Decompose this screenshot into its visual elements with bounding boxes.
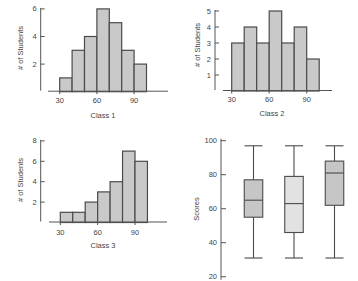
histogram-class-3: 2468306090Class 3# of Students: [16, 136, 167, 250]
histogram-bar: [123, 151, 135, 222]
y-tick-label: 6: [33, 157, 37, 166]
x-tick-label: 30: [56, 228, 64, 237]
y-tick-label: 80: [209, 170, 217, 179]
figure: 246306090Class 1# of Students 1234530609…: [0, 0, 358, 281]
histogram-bar: [244, 27, 257, 91]
y-tick-label: 40: [209, 238, 217, 247]
histogram-bar: [72, 50, 84, 91]
histogram-class-1: 246306090Class 1# of Students: [16, 4, 168, 120]
y-tick-label: 4: [207, 23, 211, 32]
y-tick-label: 4: [33, 32, 37, 41]
y-tick-label: 4: [33, 177, 37, 186]
histogram-bar: [294, 27, 307, 91]
y-tick-label: 6: [33, 4, 37, 13]
y-tick-label: 100: [204, 136, 217, 145]
x-tick-label: 90: [130, 96, 138, 105]
histogram-bar: [109, 23, 121, 92]
histogram-bar: [85, 202, 97, 222]
x-tick-label: 90: [303, 95, 311, 104]
histogram-class-2: 12345306090Class 2# of Students: [193, 7, 332, 119]
x-tick-label: 60: [93, 228, 101, 237]
x-tick-label: 90: [131, 228, 139, 237]
y-tick-label: 5: [207, 7, 211, 16]
boxplot-1: [244, 146, 263, 258]
y-tick-label: 8: [33, 136, 37, 145]
histogram-bar: [269, 11, 282, 91]
x-tick-label: 60: [265, 95, 273, 104]
y-tick-label: 20: [209, 272, 217, 281]
histogram-bar: [60, 212, 72, 222]
y-tick-label: 2: [33, 60, 37, 69]
histogram-bar: [122, 50, 134, 91]
histogram-bar: [134, 64, 146, 92]
histogram-bar: [257, 43, 270, 91]
chart-canvas: 246306090Class 1# of Students 1234530609…: [0, 0, 358, 281]
x-axis-label: Class 3: [90, 241, 115, 250]
histogram-bar: [307, 59, 320, 91]
x-tick-label: 60: [93, 96, 101, 105]
y-axis-label: # of Students: [16, 158, 25, 202]
histogram-bar: [85, 37, 97, 92]
histogram-bar: [282, 43, 295, 91]
y-axis-label: # of Students: [193, 23, 202, 67]
boxplot-3: [325, 146, 344, 258]
y-axis-label: Scores: [192, 197, 201, 221]
boxplot-2: [285, 146, 304, 258]
x-axis-label: Class 2: [259, 109, 284, 118]
histogram-bar: [135, 161, 147, 222]
x-tick-label: 30: [56, 96, 64, 105]
y-tick-label: 1: [207, 71, 211, 80]
histogram-bar: [232, 43, 245, 91]
x-tick-label: 30: [228, 95, 236, 104]
y-axis-label: # of Students: [16, 26, 25, 70]
y-tick-label: 2: [207, 55, 211, 64]
histogram-bar: [98, 192, 110, 223]
y-tick-label: 60: [209, 204, 217, 213]
boxplot-scores: 20406080100Scores: [192, 136, 344, 281]
histogram-bar: [97, 9, 109, 92]
histogram-bar: [73, 212, 85, 222]
histogram-bar: [110, 182, 122, 223]
x-axis-label: Class 1: [90, 111, 115, 120]
y-tick-label: 3: [207, 39, 211, 48]
y-tick-label: 2: [33, 198, 37, 207]
histogram-bar: [60, 78, 72, 92]
